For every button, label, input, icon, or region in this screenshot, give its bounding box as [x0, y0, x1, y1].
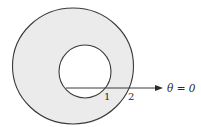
arrowhead-icon [155, 85, 163, 91]
annulus-diagram: 1 2 θ = 0 [0, 0, 201, 127]
theta-zero-label: θ = 0 [167, 82, 196, 94]
outer-radius-label: 2 [128, 91, 134, 102]
inner-radius-label: 1 [104, 91, 110, 102]
